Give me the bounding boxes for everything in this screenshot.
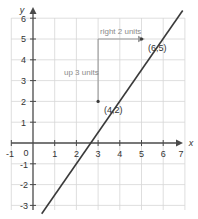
x-tick-label-5: 5 — [139, 149, 144, 159]
y-tick-label-5: 5 — [21, 34, 26, 44]
point-label-upper: (6,5) — [148, 43, 167, 53]
y-tick-label-6: 6 — [21, 14, 26, 24]
rise-annotation-label: up 3 units — [64, 68, 99, 77]
graph-text-layer: y x 6 5 4 3 2 1 -1 -2 -3 0 -1 1 2 3 4 5 … — [0, 0, 198, 219]
y-tick-label-neg2: -2 — [20, 180, 28, 190]
x-tick-label-7: 7 — [178, 149, 183, 159]
point-label-lower: (4,2) — [104, 105, 123, 115]
y-tick-label-1: 1 — [21, 118, 26, 128]
x-tick-label-1: 1 — [52, 149, 57, 159]
coordinate-graph-figure: y x 6 5 4 3 2 1 -1 -2 -3 0 -1 1 2 3 4 5 … — [0, 0, 198, 219]
x-tick-label-6: 6 — [161, 149, 166, 159]
x-tick-label-2: 2 — [74, 149, 79, 159]
x-tick-label-3: 3 — [96, 149, 101, 159]
y-tick-label-2: 2 — [21, 97, 26, 107]
origin-label: 0 — [23, 148, 28, 158]
y-tick-label-3: 3 — [21, 76, 26, 86]
x-tick-label-4: 4 — [117, 149, 122, 159]
x-tick-label-neg1: -1 — [6, 149, 14, 159]
y-tick-label-4: 4 — [21, 55, 26, 65]
x-axis-label: x — [188, 138, 194, 148]
y-tick-label-neg1: -1 — [20, 160, 28, 170]
y-tick-label-neg3: -3 — [20, 201, 28, 211]
run-annotation-label: right 2 units — [100, 27, 141, 36]
